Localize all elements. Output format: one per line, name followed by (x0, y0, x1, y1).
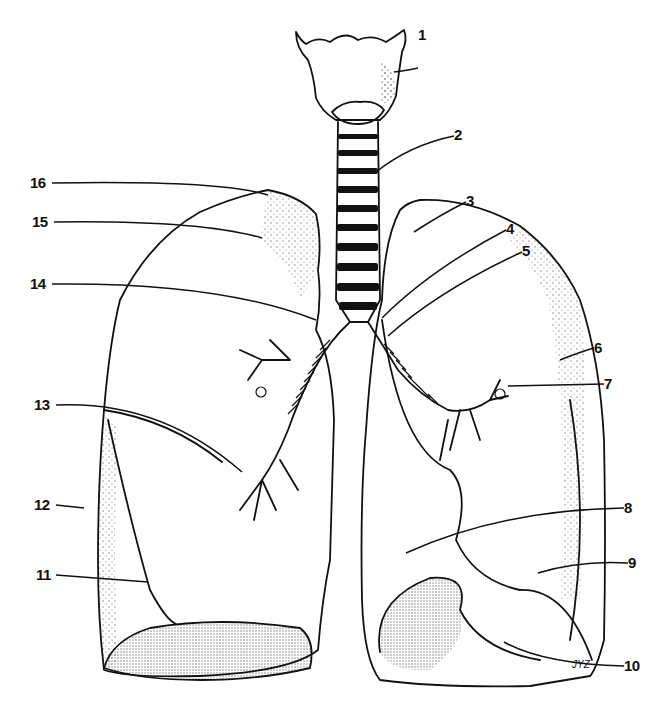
label-3: 3 (466, 193, 474, 208)
label-4: 4 (506, 221, 514, 236)
label-12: 12 (34, 497, 50, 512)
right-lung (98, 190, 334, 680)
label-2: 2 (454, 127, 462, 142)
label-6: 6 (594, 340, 602, 355)
label-16: 16 (30, 175, 46, 190)
label-1: 1 (418, 27, 426, 42)
lungs-diagram: JYZ (0, 0, 668, 706)
larynx (296, 30, 406, 124)
leader-lines (52, 68, 628, 666)
label-15: 15 (32, 214, 48, 229)
label-11: 11 (36, 567, 51, 582)
label-5: 5 (522, 243, 530, 258)
label-8: 8 (624, 500, 632, 515)
trachea (336, 122, 380, 322)
label-10: 10 (624, 658, 640, 673)
label-9: 9 (628, 555, 636, 570)
left-lung: JYZ (362, 200, 606, 687)
label-13: 13 (34, 397, 50, 412)
label-7: 7 (604, 376, 612, 391)
label-14: 14 (30, 276, 46, 291)
